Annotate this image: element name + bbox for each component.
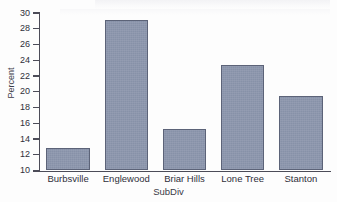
scan-artifact-top xyxy=(95,0,330,9)
x-axis-label: SubDiv xyxy=(0,186,337,197)
y-tick-mark xyxy=(33,170,39,171)
y-tick-label: 24 xyxy=(6,56,30,65)
y-tick-label: 28 xyxy=(6,24,30,33)
y-tick-label: 22 xyxy=(6,72,30,81)
bar-chart: Percent SubDiv 1012141618202224262830 Bu… xyxy=(0,0,337,202)
y-tick-mark xyxy=(33,75,39,76)
y-tick-mark xyxy=(33,60,39,61)
bar-stanton xyxy=(279,96,322,170)
y-tick-mark xyxy=(33,138,39,139)
y-tick-mark xyxy=(33,91,39,92)
y-tick-label: 10 xyxy=(6,166,30,175)
y-tick-label: 30 xyxy=(6,9,30,18)
y-tick-label: 20 xyxy=(6,87,30,96)
y-tick-label: 18 xyxy=(6,103,30,112)
x-axis-line xyxy=(33,171,331,172)
bar-lone-tree xyxy=(221,65,264,171)
y-axis-line xyxy=(39,12,40,172)
category-label: Briar Hills xyxy=(155,173,213,184)
y-tick-label: 12 xyxy=(6,150,30,159)
y-tick-mark xyxy=(33,28,39,29)
y-tick-label: 26 xyxy=(6,40,30,49)
bar-burbsville xyxy=(46,148,89,171)
y-tick-label: 16 xyxy=(6,119,30,128)
category-label: Burbsville xyxy=(39,173,97,184)
y-tick-mark xyxy=(33,12,39,13)
y-tick-mark xyxy=(33,154,39,155)
scan-artifact-secondary xyxy=(60,9,330,15)
bar-englewood xyxy=(105,20,148,170)
category-label: Englewood xyxy=(97,173,155,184)
y-tick-mark xyxy=(33,44,39,45)
y-tick-mark xyxy=(33,107,39,108)
y-tick-label: 14 xyxy=(6,135,30,144)
bar-briar-hills xyxy=(163,129,206,171)
y-tick-mark xyxy=(33,123,39,124)
category-label: Lone Tree xyxy=(214,173,272,184)
category-label: Stanton xyxy=(272,173,330,184)
